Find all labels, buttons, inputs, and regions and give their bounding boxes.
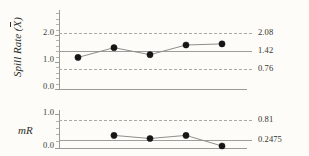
moving-range-data-point bbox=[219, 143, 225, 149]
individuals-chart-panel: Spill Rate (X) 2.0 1.0 0.0 2.08 1.42 0.7 bbox=[0, 0, 309, 98]
individuals-series bbox=[0, 0, 309, 98]
individuals-data-point bbox=[219, 41, 225, 47]
individuals-data-point bbox=[183, 42, 189, 48]
moving-range-chart-panel: mR 1.0 0.0 0.81 0.2475 bbox=[0, 98, 309, 156]
moving-range-data-point bbox=[111, 132, 117, 138]
individuals-data-point bbox=[147, 52, 153, 58]
moving-range-series-line bbox=[114, 135, 222, 146]
spc-control-chart-figure: Spill Rate (X) 2.0 1.0 0.0 2.08 1.42 0.7 bbox=[0, 0, 309, 156]
individuals-data-point bbox=[111, 45, 117, 51]
moving-range-series bbox=[0, 98, 309, 156]
moving-range-data-point bbox=[183, 132, 189, 138]
moving-range-data-point bbox=[147, 135, 153, 141]
individuals-data-point bbox=[75, 54, 81, 60]
